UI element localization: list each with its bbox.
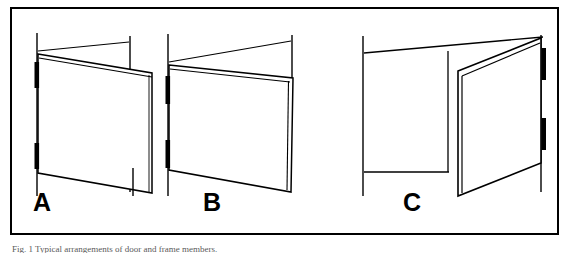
panel-b-hinge-upper — [166, 76, 171, 104]
panel-label-b: B — [203, 190, 221, 215]
panel-a-head-line — [38, 42, 129, 51]
figure-caption: Fig. 1 Typical arrangements of door and … — [12, 244, 568, 253]
panel-c-hinge-lower — [542, 118, 546, 150]
panel-b-hinge-lower — [166, 140, 171, 168]
panel-b-drawing — [166, 34, 294, 196]
door-swing-diagram — [0, 0, 576, 253]
panel-c-hinge-upper — [542, 48, 546, 80]
panel-a-hinge-upper — [35, 62, 40, 88]
panel-a-drawing — [35, 33, 153, 196]
panel-a-door-leaf — [38, 54, 152, 193]
figure-root: A B C Fig. 1 Typical arrangements of doo… — [0, 0, 576, 253]
panel-b-door-leaf — [169, 65, 293, 192]
panel-c-drawing — [363, 35, 546, 196]
panel-label-c: C — [403, 190, 421, 215]
panel-label-a: A — [33, 190, 51, 215]
panel-c-door-leaf — [458, 38, 541, 196]
panel-a-hinge-lower — [35, 143, 40, 169]
panel-b-head-line — [169, 41, 291, 62]
